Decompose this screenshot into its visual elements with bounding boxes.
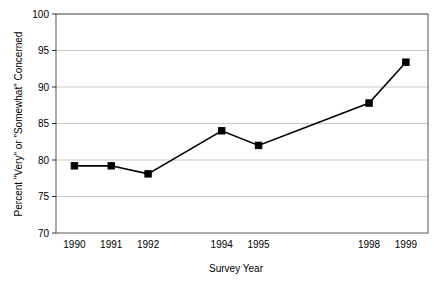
- data-point-marker: [108, 163, 114, 169]
- y-tick-label: 95: [38, 45, 50, 56]
- x-tick-label: 1991: [100, 239, 123, 250]
- y-tick-label: 70: [38, 228, 50, 239]
- y-tick-label: 100: [32, 9, 49, 20]
- x-tick-label: 1998: [358, 239, 381, 250]
- data-point-marker: [255, 142, 261, 148]
- x-tick-label: 1999: [395, 239, 418, 250]
- x-tick-label: 1992: [137, 239, 160, 250]
- data-point-marker: [403, 59, 409, 65]
- data-point-marker: [145, 171, 151, 177]
- y-tick-label: 75: [38, 191, 50, 202]
- y-axis-title: Percent "Very" or "Somewhat" Concerned: [13, 32, 24, 217]
- y-tick-label: 90: [38, 82, 50, 93]
- y-tick-label: 85: [38, 118, 50, 129]
- x-axis-title: Survey Year: [209, 263, 264, 274]
- x-tick-label: 1990: [63, 239, 86, 250]
- data-point-marker: [71, 163, 77, 169]
- x-tick-label: 1995: [247, 239, 270, 250]
- data-point-marker: [219, 128, 225, 134]
- data-point-marker: [366, 100, 372, 106]
- line-chart: 707580859095100 199019911992199419951998…: [0, 0, 446, 286]
- x-tick-label: 1994: [211, 239, 234, 250]
- chart-container: 707580859095100 199019911992199419951998…: [0, 0, 446, 286]
- y-tick-label: 80: [38, 155, 50, 166]
